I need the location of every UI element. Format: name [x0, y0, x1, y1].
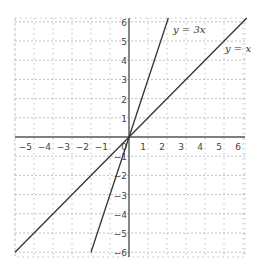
- y-tick-label: 1: [121, 114, 127, 124]
- y-tick-label: 2: [121, 95, 127, 105]
- y-tick-label: −1: [114, 152, 127, 162]
- y-tick-label: −3: [114, 191, 127, 201]
- y-tick-label: −5: [114, 229, 127, 239]
- line-y-equals-x: [15, 18, 247, 252]
- label-y-equals-x: y = x: [224, 43, 251, 54]
- label-y-equals-3x: y = 3x: [172, 24, 206, 35]
- coordinate-plane: −5−4−3−2−10123456−6−5−4−3−2−1123456 y = …: [0, 0, 259, 268]
- tick-labels: −5−4−3−2−10123456−6−5−4−3−2−1123456: [19, 18, 242, 258]
- x-tick-label: 2: [159, 142, 165, 152]
- x-tick-label: 5: [216, 142, 222, 152]
- y-tick-label: 3: [121, 75, 127, 85]
- x-tick-label: −4: [38, 142, 52, 152]
- y-tick-label: −6: [114, 248, 128, 258]
- x-tick-label: 1: [140, 142, 146, 152]
- y-tick-label: −4: [114, 210, 128, 220]
- x-tick-label: 6: [235, 142, 241, 152]
- plot-lines: [15, 18, 247, 252]
- x-tick-label: −3: [57, 142, 70, 152]
- x-tick-label: −5: [19, 142, 32, 152]
- x-tick-label: −1: [95, 142, 108, 152]
- y-tick-label: 5: [121, 37, 127, 47]
- x-tick-label: 4: [197, 142, 203, 152]
- x-tick-label: 3: [178, 142, 184, 152]
- x-tick-label: −2: [76, 142, 89, 152]
- y-tick-label: 6: [121, 18, 127, 28]
- y-tick-label: 4: [121, 56, 127, 66]
